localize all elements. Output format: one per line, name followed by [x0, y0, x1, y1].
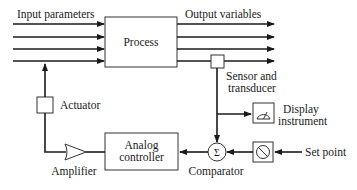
sensor-label-line2: transducer: [228, 82, 276, 94]
input-parameters-label: Input parameters: [17, 8, 95, 21]
output-arrows: [177, 24, 274, 61]
amplifier-label: Amplifier: [51, 165, 97, 178]
output-variables-label: Output variables: [185, 8, 262, 21]
actuator-label: Actuator: [60, 99, 100, 111]
set-point-label: Set point: [305, 146, 347, 159]
process-label: Process: [123, 36, 159, 48]
actuator-box: [37, 97, 53, 113]
sensor-transducer-box: [211, 55, 224, 68]
input-arrows: [13, 24, 104, 61]
control-system-diagram: Input parameters Process Output variable…: [0, 0, 357, 190]
amplifier-icon: [65, 144, 86, 160]
sigma-symbol: Σ: [214, 147, 220, 158]
analog-label-line2: controller: [119, 151, 164, 163]
comparator-label: Comparator: [189, 165, 244, 178]
display-label-line2: instrument: [278, 115, 328, 127]
sensor-label-line1: Sensor and: [226, 70, 277, 82]
display-instrument-icon: [253, 103, 274, 123]
set-point-dial-icon: [253, 142, 273, 162]
